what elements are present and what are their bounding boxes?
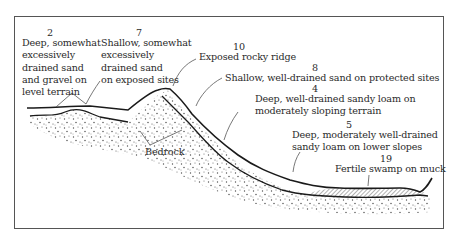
label-line: Deep, somewhat (22, 37, 101, 49)
label-line: Exposed rocky ridge (199, 51, 296, 63)
label-line: drained sand (101, 62, 191, 74)
soil-label-7: Shallow, somewhat excessively drained sa… (101, 37, 191, 86)
label-line: on exposed sites (101, 74, 191, 86)
label-line: Deep, moderately well-drained (292, 129, 438, 141)
soil-label-4: Deep, well-drained sandy loam on moderat… (255, 93, 415, 118)
label-line: Shallow, well-drained sand on protected … (225, 72, 439, 84)
label-line: drained sand (22, 62, 101, 74)
label-line: and gravel on (22, 74, 101, 86)
label-line: sandy loam on lower slopes (292, 141, 438, 153)
soil-label-5: Deep, moderately well-drained sandy loam… (292, 129, 438, 154)
label-line: excessively (101, 49, 191, 61)
label-line: Shallow, somewhat (101, 37, 191, 49)
label-line: Deep, well-drained sandy loam on (255, 93, 415, 105)
label-line: moderately sloping terrain (255, 105, 415, 117)
soil-label-8: Shallow, well-drained sand on protected … (225, 72, 439, 84)
soil-label-2: Deep, somewhat excessively drained sand … (22, 37, 101, 98)
bedrock-label: Bedrock (145, 146, 184, 158)
terrain-cross-section (0, 0, 453, 238)
soil-label-10: Exposed rocky ridge (199, 51, 296, 63)
soil-label-19: Fertile swamp on muck (335, 163, 446, 175)
label-line: level terrain (22, 86, 101, 98)
label-line: Fertile swamp on muck (335, 163, 446, 175)
label-line: excessively (22, 49, 101, 61)
